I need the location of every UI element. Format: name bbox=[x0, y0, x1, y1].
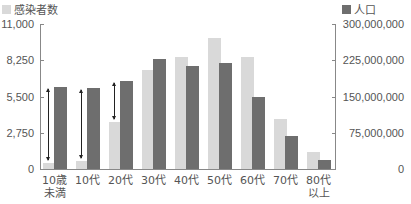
x-tick-label: 50代 bbox=[203, 174, 236, 187]
x-tick-label: 70代 bbox=[269, 174, 302, 187]
gap-double-arrow bbox=[81, 90, 82, 158]
right-tick-mark bbox=[332, 24, 336, 25]
x-tick-label: 40代 bbox=[170, 174, 203, 187]
bar-population bbox=[252, 97, 265, 169]
bar-population bbox=[285, 136, 298, 169]
legend-infections: 感染者数 bbox=[2, 1, 58, 17]
x-tick-label: 20代 bbox=[104, 174, 137, 187]
bar-population bbox=[186, 66, 199, 169]
x-tick-label: 10代 bbox=[71, 174, 104, 187]
right-tick-mark bbox=[332, 169, 336, 170]
left-tick-mark bbox=[40, 169, 44, 170]
right-tick-label: 150,000,000 bbox=[342, 91, 404, 103]
x-tick-label: 80代以上 bbox=[302, 174, 335, 200]
legend-label-population: 人口 bbox=[354, 1, 376, 17]
bar-population bbox=[120, 81, 133, 169]
x-tick-label: 30代 bbox=[137, 174, 170, 187]
left-tick-label: 5,500 bbox=[6, 91, 34, 103]
x-axis-line bbox=[40, 169, 336, 170]
left-tick-mark bbox=[40, 24, 44, 25]
left-tick-label: 11,000 bbox=[1, 18, 34, 30]
left-tick-label: 0 bbox=[28, 163, 34, 175]
bar-population bbox=[153, 59, 166, 169]
right-tick-mark bbox=[332, 60, 336, 61]
legend-label-infections: 感染者数 bbox=[14, 1, 58, 17]
bar-population bbox=[87, 88, 100, 169]
legend-swatch-infections bbox=[2, 5, 11, 14]
left-tick-label: 2,750 bbox=[6, 127, 34, 139]
left-tick-mark bbox=[40, 60, 44, 61]
x-tick-label: 60代 bbox=[236, 174, 269, 187]
right-tick-mark bbox=[332, 97, 336, 98]
gap-double-arrow bbox=[114, 83, 115, 119]
right-tick-label: 75,000,000 bbox=[342, 127, 404, 139]
gap-double-arrow bbox=[48, 89, 49, 160]
x-tick-label: 10歳未満 bbox=[38, 174, 71, 200]
right-tick-label: 0 bbox=[342, 163, 404, 175]
right-tick-label: 300,000,000 bbox=[342, 18, 404, 30]
legend-swatch-population bbox=[342, 5, 351, 14]
dual-axis-bar-chart: 感染者数 人口 02,7505,5008,25011,000 075,000,0… bbox=[0, 0, 411, 204]
right-tick-mark bbox=[332, 133, 336, 134]
left-tick-mark bbox=[40, 133, 44, 134]
bar-population bbox=[54, 87, 67, 169]
bar-population bbox=[318, 160, 331, 169]
left-tick-label: 8,250 bbox=[6, 54, 34, 66]
bar-population bbox=[219, 63, 232, 169]
left-tick-mark bbox=[40, 97, 44, 98]
legend-population: 人口 bbox=[342, 1, 376, 17]
right-tick-label: 225,000,000 bbox=[342, 54, 404, 66]
